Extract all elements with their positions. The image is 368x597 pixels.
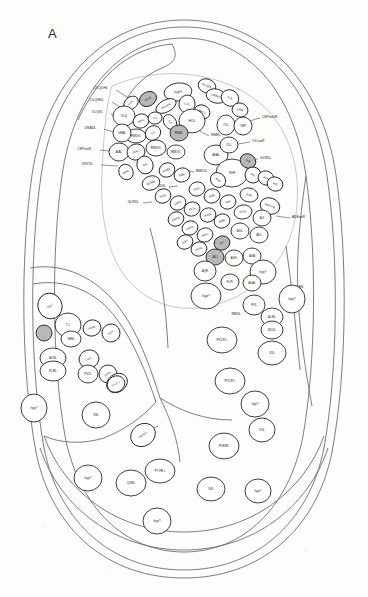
cell-body: V8L xyxy=(82,402,110,428)
cell-body: OLL xyxy=(217,115,235,135)
cell-body xyxy=(36,325,52,341)
cell-body-label: OLL xyxy=(223,123,229,127)
cell-body: AIZ xyxy=(253,210,271,226)
cell-body-label: OLL xyxy=(226,143,232,147)
leader-label-text: CEPsoDR xyxy=(262,115,278,119)
cell-body-label: ASIL xyxy=(237,229,244,233)
cell-body-label: hyp? xyxy=(252,402,259,406)
cell-body: ADL xyxy=(250,227,268,243)
cell-body-label: ASJ xyxy=(212,255,218,259)
cell-body: V4L xyxy=(197,477,225,501)
leader-label-text: OLLsoR xyxy=(252,139,265,143)
cell-body-label: ALNL xyxy=(49,356,57,360)
leader-label-text: URADL xyxy=(85,126,97,130)
cell-body-label: RIH xyxy=(229,171,236,175)
cell-body: V3L xyxy=(249,418,275,442)
leader-label-text: URYVL xyxy=(82,162,93,166)
cell-body: V2L xyxy=(258,341,286,365)
midline-fold xyxy=(150,228,168,348)
cell-body-label: V4L xyxy=(208,487,214,491)
cell-body: PVCR L xyxy=(215,368,245,394)
cell-body: OLL xyxy=(220,137,238,153)
cell-body-label: hyp? xyxy=(202,294,209,298)
leader-line xyxy=(169,186,178,187)
cell-body: ASE xyxy=(239,187,259,204)
cell-body-label: PVL xyxy=(251,303,257,307)
cell-body: hyp? xyxy=(74,465,102,491)
cell-body-label: hyp? xyxy=(154,519,161,523)
cell-body: PT-FB L xyxy=(145,459,175,483)
cell-body-label: RMEL xyxy=(175,131,184,135)
cell-body: RIML xyxy=(116,162,136,183)
cell-body-label: PLML xyxy=(49,369,57,373)
cell-body-label: VBNL xyxy=(67,337,75,341)
cell-body-label: PVCR L xyxy=(217,338,228,342)
leader-label-text: BMDVL xyxy=(196,169,208,173)
cell-body: hyp? xyxy=(21,394,47,422)
leader-label-text: OLQDHL xyxy=(94,86,108,90)
leader-label-text: OLQHDL xyxy=(90,98,104,102)
cell-bodies-group: hyp4OLQDLURAVLOLQRIPLOLLsoLIL1LRMELIL2LU… xyxy=(21,76,305,534)
cell-body-label: hyp? xyxy=(31,406,38,410)
cell-body: PLML xyxy=(40,361,66,381)
anatomy-diagram: OLQDHLOLQHDLOLQVLURADLCEPsoVLURYVLCEPsoD… xyxy=(0,0,368,597)
cell-body: hyp? xyxy=(279,285,305,313)
cell-body: hyp? xyxy=(143,508,171,534)
cell-body: PVCL xyxy=(78,365,98,383)
cell-body: PVB/BL xyxy=(209,433,239,459)
cell-body: PVL xyxy=(243,295,265,315)
cell-body-label: CEP xyxy=(240,124,246,128)
lower-left-curve xyxy=(44,436,104,442)
cell-body: AIM xyxy=(218,193,238,212)
cell-body-label: hyp? xyxy=(255,489,262,493)
cell-body-label: ADL xyxy=(256,233,262,237)
septum-branch-right xyxy=(160,398,232,420)
cell-body: OLQ xyxy=(137,88,160,109)
cell-body: PVR xyxy=(98,320,123,345)
cell-body: OLQ xyxy=(113,106,135,126)
cell-body-label: ADAL xyxy=(248,281,256,285)
cell-body: RMEL xyxy=(170,125,188,141)
cell-body: AQR xyxy=(194,261,216,281)
leader-line xyxy=(276,216,290,218)
cell-body: QVBL xyxy=(116,470,146,496)
cell-body-label: RMDVL xyxy=(131,134,142,138)
cell-body: VBNL xyxy=(61,331,81,347)
cell-body-label: AVAL xyxy=(212,153,220,157)
cell-body-label: AWA xyxy=(249,254,255,258)
cell-body-label: PVCL xyxy=(84,372,92,376)
leader-line xyxy=(101,165,118,166)
cell-body: AIAL xyxy=(109,143,129,161)
cell-body: PQRL xyxy=(81,317,103,338)
cell-body-label: BDUL xyxy=(268,328,276,332)
cell-body-label: ALML xyxy=(268,315,276,319)
cell-body-label: AQR xyxy=(202,269,209,273)
cell-body-label: T L xyxy=(66,323,71,327)
cell-body-label: PVB/BL xyxy=(219,444,230,448)
cell-body-label: AIZ xyxy=(260,216,265,220)
leader-label-text: GLRDL xyxy=(260,156,271,160)
cell-body: ADFL xyxy=(225,250,243,266)
leader-label-text: GLRDL xyxy=(128,200,139,204)
leader-label-text: CEPsoVL xyxy=(77,147,92,151)
cell-body-label: HOL xyxy=(189,119,196,123)
cell-body-label: hyp? xyxy=(260,270,267,274)
cell-body: CEP xyxy=(234,117,252,135)
cell-body: ASIL xyxy=(231,223,249,239)
leader-label-text: ADEsoR xyxy=(292,215,306,219)
leader-line xyxy=(200,131,209,136)
cell-body-label: PVCR L xyxy=(225,379,236,383)
cell-body-label: V3L xyxy=(259,428,265,432)
cell-body-label: V2L xyxy=(269,351,275,355)
cell-body: FLPL xyxy=(221,274,239,290)
cell-body-label: V8L xyxy=(93,413,99,417)
cell-body-label: hyp? xyxy=(85,476,92,480)
leader-line xyxy=(143,202,152,203)
cell-body-label: FLPL xyxy=(227,280,234,284)
cell-body-shaded xyxy=(36,325,52,341)
cell-body: GLRDL xyxy=(140,173,162,192)
cell-body-label: ADFL xyxy=(230,256,238,260)
cell-body: AVEL xyxy=(187,180,206,198)
cell-body-label: RMDVL xyxy=(151,146,162,150)
leader-label-text: RMDL xyxy=(231,312,241,316)
